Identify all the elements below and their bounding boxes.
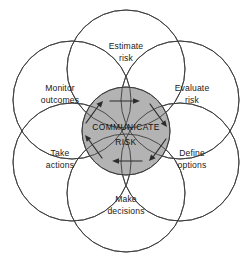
petal-label-monitor-outcomes: Monitor outcomes	[41, 83, 79, 105]
petal-label-evaluate-risk-line2: risk	[185, 95, 200, 105]
petal-label-evaluate-risk-line1: Evaluate	[175, 83, 210, 93]
core-label-line1: COMMUNICATE	[92, 122, 160, 132]
petal-label-monitor-outcomes-line1: Monitor	[45, 83, 75, 93]
petal-label-define-options-line2: options	[178, 160, 207, 170]
petal-label-estimate-risk: Estimate risk	[109, 41, 144, 63]
petal-label-define-options-line1: Define	[179, 148, 205, 158]
petal-label-monitor-outcomes-line2: outcomes	[41, 95, 79, 105]
petal-label-make-decisions-line2: decisions	[107, 206, 144, 216]
risk-cycle-diagram: Estimate risk Evaluate risk Define optio…	[0, 0, 252, 263]
venn-diagram-canvas: Estimate risk Evaluate risk Define optio…	[0, 0, 252, 263]
petal-label-take-actions-line1: Take	[51, 148, 70, 158]
petal-label-make-decisions-line1: Make	[115, 194, 137, 204]
core-label-line2: RISK	[115, 137, 136, 147]
petal-label-take-actions-line2: actions	[46, 160, 74, 170]
petal-label-estimate-risk-line1: Estimate	[109, 41, 144, 51]
petal-label-estimate-risk-line2: risk	[119, 53, 134, 63]
